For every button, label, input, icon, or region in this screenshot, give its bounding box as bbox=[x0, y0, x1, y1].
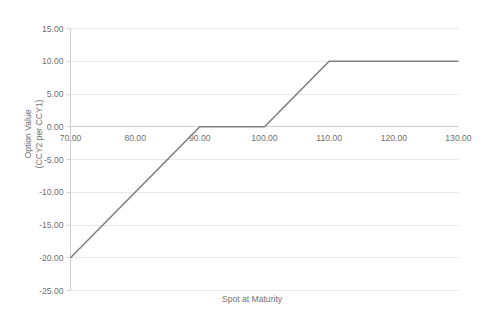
option-payoff-chart: 15.0010.005.000.00-5.00-10.00-15.00-20.0… bbox=[0, 0, 486, 323]
y-axis-tick-label: -25.00 bbox=[39, 286, 64, 296]
x-axis-tick-label: 70.00 bbox=[60, 133, 82, 143]
chart-background bbox=[0, 0, 486, 323]
y-axis-title-line2: (CCY2 per CCY1) bbox=[34, 99, 44, 168]
y-axis-tick-label: 5.00 bbox=[47, 89, 64, 99]
x-axis-tick-label: 80.00 bbox=[124, 133, 146, 143]
chart-canvas: 15.0010.005.000.00-5.00-10.00-15.00-20.0… bbox=[0, 0, 486, 323]
x-axis-title: Spot at Maturity bbox=[222, 294, 283, 304]
y-axis-tick-label: -20.00 bbox=[39, 253, 64, 263]
x-axis-tick-label: 130.00 bbox=[445, 133, 472, 143]
y-axis-tick-label: -15.00 bbox=[39, 220, 64, 230]
y-axis-tick-label: 15.00 bbox=[42, 24, 64, 34]
y-axis-tick-label: 10.00 bbox=[42, 56, 64, 66]
y-axis-tick-label: -10.00 bbox=[39, 187, 64, 197]
x-axis-tick-label: 110.00 bbox=[316, 133, 342, 143]
y-axis-tick-label: -5.00 bbox=[44, 155, 64, 165]
x-axis-tick-label: 100.00 bbox=[251, 133, 278, 143]
y-axis-tick-label: 0.00 bbox=[47, 122, 64, 132]
y-axis-title-line1: Option Value bbox=[23, 109, 33, 158]
x-axis-tick-label: 120.00 bbox=[381, 133, 408, 143]
